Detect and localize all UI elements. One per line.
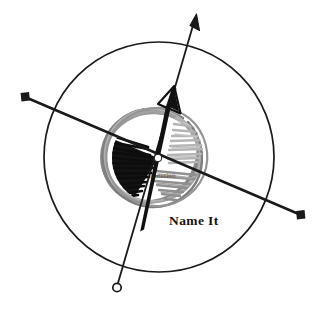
center-faint-label: Emotion (150, 172, 176, 181)
name-it-diagram (0, 0, 323, 310)
diagram-canvas: Name It Emotion (0, 0, 323, 310)
axis-endpoint-square-left (21, 92, 30, 101)
axis-endpoint-square-right (296, 210, 305, 219)
axis-endpoint-open-circle (113, 283, 121, 291)
origin-center-dot (154, 154, 162, 162)
figure-caption-name-it: Name It (169, 213, 219, 229)
